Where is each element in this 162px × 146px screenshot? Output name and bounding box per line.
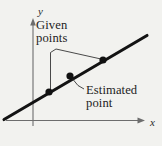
given-points-line-1: Given <box>36 19 67 32</box>
x-axis-arrowhead <box>138 118 146 124</box>
x-axis-label: x <box>149 116 155 128</box>
estimated-point-annotation: Estimated point <box>86 84 137 111</box>
x-axis <box>6 118 145 124</box>
estimated-point-line-2: point <box>86 97 137 110</box>
y-axis <box>30 18 36 126</box>
estimated-point <box>66 72 73 79</box>
y-axis-arrowhead <box>30 18 36 26</box>
given-point-2 <box>99 56 106 63</box>
estimated-point-line-1: Estimated <box>86 84 137 97</box>
given-points-line-2: points <box>36 32 67 45</box>
figure-canvas: y x <box>0 0 162 146</box>
estimated-point-leader <box>71 77 84 89</box>
interpolation-figure: y x Given points Estimated point <box>0 0 162 146</box>
given-point-1 <box>45 88 52 95</box>
given-points-annotation: Given points <box>36 19 67 46</box>
y-axis-label: y <box>37 5 43 17</box>
